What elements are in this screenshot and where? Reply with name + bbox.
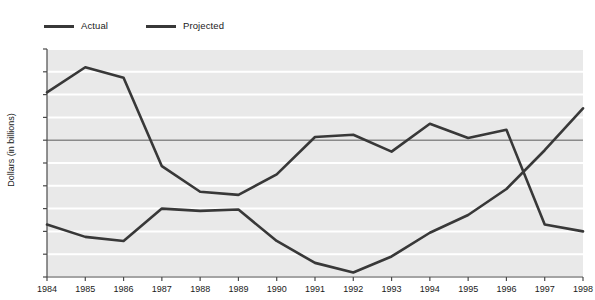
chart-container: Actual Projected Dollars (in billions) 2… (0, 0, 595, 300)
chart-plot-area (0, 0, 595, 300)
